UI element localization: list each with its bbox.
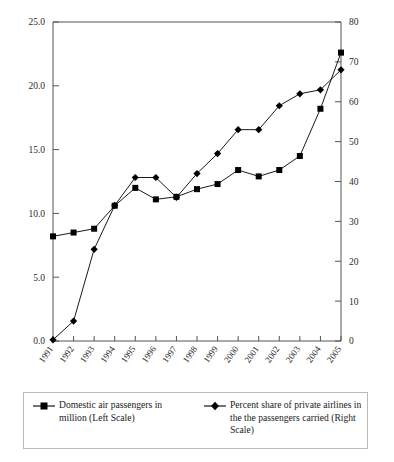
left-axis-tick-label: 20.0: [28, 81, 45, 91]
x-axis-tick-label: 1992: [57, 344, 76, 364]
data-point-marker: [276, 167, 282, 173]
left-axis-tick-label: 15.0: [28, 145, 45, 155]
data-point-marker: [50, 233, 56, 239]
data-point-marker: [91, 246, 98, 253]
left-axis-tick-label: 25.0: [28, 17, 45, 27]
x-axis-tick-label: 1994: [98, 344, 117, 365]
left-axis-tick-label: 10.0: [28, 209, 45, 219]
data-point-marker: [256, 173, 262, 179]
x-axis-tick-label: 2003: [284, 344, 303, 365]
series-line-1: [53, 53, 341, 237]
x-axis-tick-label: 2002: [263, 344, 282, 364]
data-point-marker: [132, 185, 138, 191]
square-line-marker-icon: [33, 400, 55, 412]
right-axis-tick-label: 60: [349, 97, 359, 107]
legend-entry-domestic-air-passengers: Domestic air passengers in million (Left…: [33, 399, 188, 424]
series-line-2: [53, 70, 341, 340]
data-point-marker: [317, 106, 323, 112]
line-chart-plot: 0.05.010.015.020.025.0010203040506070801…: [0, 0, 394, 388]
right-axis-tick-label: 40: [349, 177, 359, 187]
diamond-line-marker-icon: [204, 400, 226, 412]
data-point-marker: [91, 226, 97, 232]
right-axis-tick-label: 20: [349, 257, 359, 267]
left-axis-tick-label: 5.0: [33, 273, 45, 283]
data-point-marker: [132, 174, 139, 181]
x-axis-tick-label: 1997: [160, 344, 179, 365]
x-axis-tick-label: 1995: [119, 344, 138, 365]
data-point-marker: [153, 196, 159, 202]
x-axis-tick-label: 2001: [242, 344, 261, 364]
x-axis-tick-label: 2005: [325, 344, 344, 365]
right-axis-tick-label: 10: [349, 297, 359, 307]
data-point-marker: [296, 90, 303, 97]
x-axis-tick-label: 2004: [304, 344, 323, 365]
right-axis-tick-label: 80: [349, 17, 359, 27]
data-point-marker: [215, 181, 221, 187]
data-point-marker: [71, 230, 77, 236]
data-point-marker: [194, 186, 200, 192]
data-point-marker: [297, 153, 303, 159]
chart-legend: Domestic air passengers in million (Left…: [23, 392, 368, 449]
right-axis-tick-label: 50: [349, 137, 359, 147]
x-axis-tick-label: 1993: [78, 344, 97, 365]
right-axis-tick-label: 30: [349, 217, 359, 227]
legend-entry-percent-share-private-airlines: Percent share of private airlines in the…: [204, 399, 364, 437]
chart-canvas: 0.05.010.015.020.025.0010203040506070801…: [0, 0, 394, 388]
x-axis-tick-label: 1999: [201, 344, 220, 365]
data-point-marker: [235, 167, 241, 173]
data-point-marker: [338, 50, 344, 56]
chart-page: 0.05.010.015.020.025.0010203040506070801…: [0, 0, 394, 462]
right-axis-tick-label: 70: [349, 57, 359, 67]
right-axis-tick-label: 0: [349, 336, 354, 346]
x-axis-tick-label: 1996: [140, 344, 159, 365]
x-axis-tick-label: 2000: [222, 344, 241, 365]
x-axis-tick-label: 1998: [181, 344, 200, 365]
legend-label-percent-share-private-airlines: Percent share of private airlines in the…: [230, 399, 364, 437]
left-axis-tick-label: 0.0: [33, 336, 45, 346]
legend-label-domestic-air-passengers: Domestic air passengers in million (Left…: [59, 399, 188, 424]
x-axis-tick-label: 1991: [37, 344, 56, 364]
